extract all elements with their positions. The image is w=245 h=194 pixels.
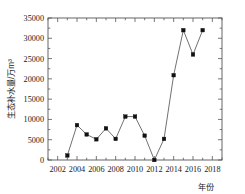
series-line xyxy=(67,30,202,160)
x-tick-label: 2016 xyxy=(185,165,201,174)
y-tick-label: 25000 xyxy=(24,55,44,64)
data-point-marker xyxy=(124,115,128,119)
data-point-marker xyxy=(143,134,147,138)
data-point-marker xyxy=(182,28,186,32)
x-tick-label: 2012 xyxy=(146,165,162,174)
x-tick-label: 2014 xyxy=(165,165,181,174)
data-point-marker xyxy=(95,138,99,142)
data-point-marker xyxy=(114,137,118,141)
x-axis-title: 年份 xyxy=(198,182,214,192)
y-tick-label: 35000 xyxy=(24,14,44,23)
plot-frame xyxy=(48,18,222,160)
x-tick-label: 2010 xyxy=(127,165,143,174)
x-tick-label: 2018 xyxy=(204,165,220,174)
x-tick-label: 2008 xyxy=(107,165,123,174)
data-point-marker xyxy=(104,127,108,131)
y-tick-label: 30000 xyxy=(24,34,44,43)
data-point-marker xyxy=(162,137,166,141)
data-point-marker xyxy=(75,123,79,127)
y-tick-label: 20000 xyxy=(24,75,44,84)
chart-container: 0500010000150002000025000300003500020022… xyxy=(0,0,245,194)
y-tick-label: 5000 xyxy=(28,136,44,145)
y-axis-title: 生态补水量/万m³ xyxy=(6,59,16,119)
data-point-marker xyxy=(66,154,70,158)
data-point-marker xyxy=(172,73,176,77)
y-tick-label: 10000 xyxy=(24,115,44,124)
x-tick-label: 2002 xyxy=(49,165,65,174)
data-point-marker xyxy=(85,133,89,137)
data-point-marker xyxy=(201,28,205,32)
y-tick-label: 15000 xyxy=(24,95,44,104)
data-point-marker xyxy=(153,158,157,162)
y-tick-label: 0 xyxy=(40,156,44,165)
line-chart: 0500010000150002000025000300003500020022… xyxy=(0,0,245,194)
x-tick-label: 2004 xyxy=(69,165,85,174)
x-tick-label: 2006 xyxy=(88,165,104,174)
data-point-marker xyxy=(133,115,137,119)
data-point-marker xyxy=(191,53,195,57)
